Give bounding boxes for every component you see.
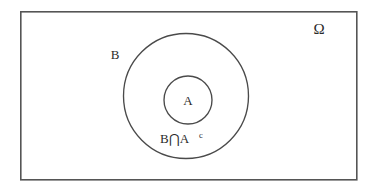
region-label-base: B⋂A xyxy=(160,131,190,146)
universe-label: Ω xyxy=(313,21,324,37)
venn-diagram-canvas: Ω B A B⋂A c xyxy=(0,0,376,195)
region-label-group: B⋂A c xyxy=(160,130,203,147)
region-label-superscript: c xyxy=(199,130,203,140)
set-b-label: B xyxy=(111,47,120,62)
set-a-label: A xyxy=(183,93,193,108)
venn-diagram-figure: Ω B A B⋂A c xyxy=(0,0,376,195)
